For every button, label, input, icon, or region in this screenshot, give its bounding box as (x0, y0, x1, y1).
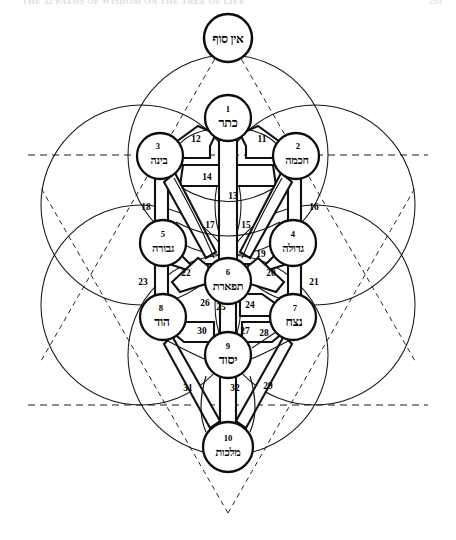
path-number-24: 24 (245, 300, 255, 310)
node-netzach[interactable]: 7 נצח (270, 294, 316, 340)
path-number-28: 28 (259, 328, 269, 338)
node-hod[interactable]: 8 הוד (140, 294, 186, 340)
hod-number: 8 (159, 303, 164, 313)
node-chokmah[interactable]: 2 חכמה (273, 133, 319, 179)
chokmah-number: 2 (296, 141, 300, 151)
keter-label: כתר (219, 116, 238, 130)
node-tiferet[interactable]: 6 תפארת (205, 258, 251, 304)
chokmah-label: חכמה (285, 154, 309, 166)
node-ein-sof[interactable]: אין סוף (204, 14, 252, 62)
path-number-12: 12 (191, 134, 201, 144)
path-number-13: 13 (228, 191, 238, 201)
path-number-22: 22 (181, 268, 191, 278)
binah-number: 3 (156, 141, 160, 151)
path-number-23: 23 (138, 277, 148, 287)
ein-sof-label: אין סוף (213, 32, 245, 46)
malkuth-label: מלכות (215, 446, 240, 458)
path-number-30: 30 (197, 326, 207, 336)
path-band-23 (155, 262, 168, 298)
path-number-26: 26 (200, 298, 210, 308)
path-number-31: 31 (183, 383, 193, 393)
gedulah-number: 4 (291, 229, 296, 239)
path-number-21: 21 (309, 277, 319, 287)
netzach-label: נצח (285, 315, 302, 329)
path-number-20: 20 (266, 268, 276, 278)
tiferet-number: 6 (226, 267, 231, 277)
path-number-27: 27 (240, 326, 250, 336)
yesod-label: יסוד (219, 353, 237, 367)
path-number-15: 15 (241, 220, 251, 230)
tree-of-life-diagram: אין סוף 1 כתר 2 חכמה 3 בינה 4 ג (0, 0, 456, 540)
path-number-16: 16 (309, 202, 319, 212)
gedulah-label: גדולה (282, 242, 304, 254)
path-band-21 (288, 262, 301, 298)
path-number-11: 11 (258, 134, 267, 144)
document-page: THE 32 PATHS OF WISDOM ON THE TREE OF LI… (0, 0, 456, 540)
netzach-number: 7 (293, 303, 298, 313)
node-gedulah[interactable]: 4 גדולה (270, 220, 316, 266)
node-gevurah[interactable]: 5 גבורה (140, 220, 186, 266)
path-number-18: 18 (141, 202, 151, 212)
hexagram-up-left-side (41, 36, 228, 361)
gevurah-label: גבורה (152, 242, 175, 254)
node-binah[interactable]: 3 בינה (137, 133, 183, 179)
node-keter[interactable]: 1 כתר (205, 95, 251, 141)
node-malkuth[interactable]: 10 מלכות (203, 422, 253, 472)
binah-label: בינה (151, 154, 168, 166)
yesod-number: 9 (226, 341, 230, 351)
path-number-29: 29 (263, 381, 273, 391)
path-number-25: 25 (216, 302, 226, 312)
hod-label: הוד (154, 315, 170, 329)
path-number-17: 17 (205, 220, 215, 230)
malkuth-number: 10 (224, 433, 233, 443)
node-yesod[interactable]: 9 יסוד (205, 332, 251, 378)
keter-number: 1 (226, 104, 230, 114)
path-number-32: 32 (230, 383, 240, 393)
path-number-14: 14 (202, 172, 212, 182)
tiferet-label: תפארת (213, 280, 243, 292)
gevurah-number: 5 (161, 229, 165, 239)
path-number-19: 19 (256, 249, 266, 259)
